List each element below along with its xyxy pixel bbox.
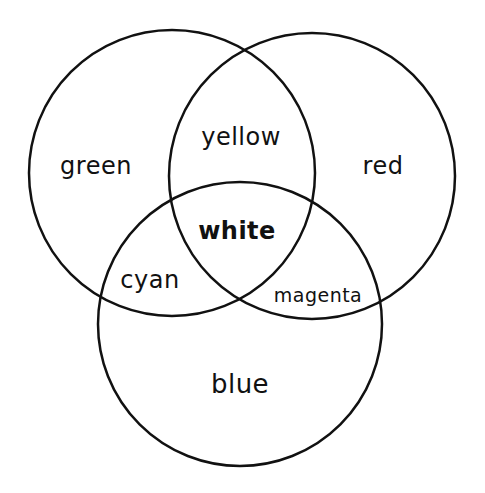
venn-diagram [0,0,485,493]
label-magenta: magenta [274,284,363,306]
label-green: green [60,152,132,180]
red-circle [169,33,455,319]
label-white: white [198,217,276,245]
label-blue: blue [211,369,269,399]
label-red: red [363,152,404,180]
label-yellow: yellow [201,123,281,151]
label-cyan: cyan [120,266,179,294]
